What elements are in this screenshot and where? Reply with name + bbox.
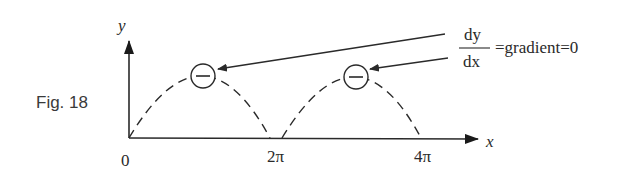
- tick-label-4pi: 4π: [414, 147, 432, 166]
- peak-marker-1: [191, 64, 215, 88]
- x-axis-label: x: [485, 132, 494, 151]
- y-axis-label: y: [116, 16, 126, 35]
- figure-label: Fig. 18: [36, 93, 88, 112]
- fraction-denominator: dx: [463, 52, 481, 71]
- x-axis: [129, 138, 478, 139]
- graph-diagram: y x 0 2π 4π Fig. 18 dy dx =gradient=0: [0, 0, 630, 176]
- tick-label-2pi: 2π: [267, 147, 285, 166]
- peak-marker-2: [344, 65, 368, 89]
- fraction-numerator: dy: [464, 25, 482, 44]
- annotation-arrow-2: [370, 58, 448, 69]
- tick-label-0: 0: [121, 151, 130, 170]
- gradient-equation: =gradient=0: [495, 38, 578, 57]
